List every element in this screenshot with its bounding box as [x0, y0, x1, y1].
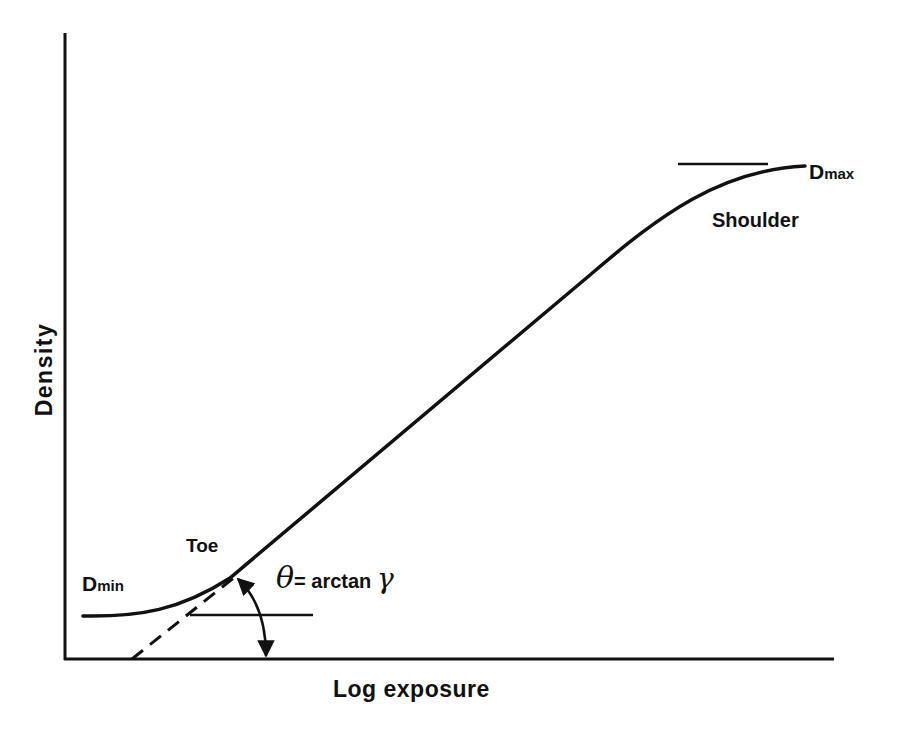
- y-axis-label: Density: [31, 322, 58, 418]
- dmin-label-main: D: [82, 572, 97, 595]
- x-axis-label: Log exposure: [333, 676, 490, 703]
- dmax-label: Dmax: [809, 160, 854, 184]
- theta-symbol: θ: [276, 560, 294, 595]
- dmin-label-sub: min: [97, 577, 124, 594]
- tangent-extension-dashed: [132, 576, 236, 659]
- gamma-symbol: γ: [377, 562, 394, 595]
- theta-equation: = arctan: [294, 570, 371, 592]
- toe-label: Toe: [186, 535, 218, 557]
- theta-label: θ= arctan γ: [276, 560, 394, 595]
- angle-arc: [238, 579, 266, 656]
- dmax-label-sub: max: [824, 165, 854, 182]
- dmax-label-main: D: [809, 160, 824, 183]
- shoulder-label: Shoulder: [712, 209, 799, 232]
- characteristic-curve-diagram: [0, 0, 898, 734]
- dmin-label: Dmin: [82, 572, 124, 596]
